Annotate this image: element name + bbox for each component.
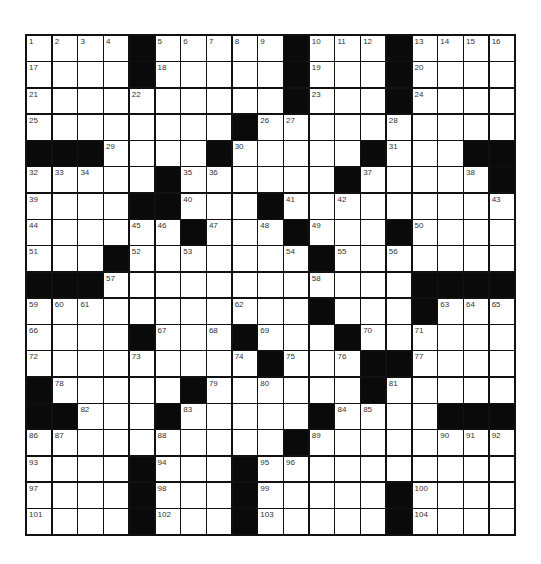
grid-cell[interactable] [78, 378, 102, 403]
grid-cell[interactable]: 69 [258, 325, 282, 350]
grid-cell[interactable] [78, 62, 102, 87]
grid-cell[interactable] [413, 457, 437, 482]
grid-cell[interactable] [104, 194, 128, 219]
grid-cell[interactable] [233, 273, 257, 298]
grid-cell[interactable] [387, 430, 411, 455]
grid-cell[interactable] [156, 351, 180, 376]
grid-cell[interactable]: 65 [490, 299, 514, 324]
grid-cell[interactable] [387, 273, 411, 298]
grid-cell[interactable]: 96 [284, 457, 308, 482]
grid-cell[interactable]: 47 [207, 220, 231, 245]
grid-cell[interactable] [130, 141, 154, 166]
grid-cell[interactable] [387, 457, 411, 482]
grid-cell[interactable]: 85 [361, 404, 385, 429]
grid-cell[interactable] [181, 273, 205, 298]
grid-cell[interactable] [284, 141, 308, 166]
grid-cell[interactable] [464, 89, 488, 114]
grid-cell[interactable]: 35 [181, 167, 205, 192]
grid-cell[interactable] [233, 404, 257, 429]
grid-cell[interactable]: 37 [361, 167, 385, 192]
grid-cell[interactable] [361, 194, 385, 219]
grid-cell[interactable] [310, 115, 334, 140]
grid-cell[interactable]: 71 [413, 325, 437, 350]
grid-cell[interactable] [78, 483, 102, 508]
grid-cell[interactable] [233, 430, 257, 455]
grid-cell[interactable] [335, 299, 359, 324]
grid-cell[interactable]: 64 [464, 299, 488, 324]
grid-cell[interactable] [78, 194, 102, 219]
grid-cell[interactable]: 1 [27, 36, 51, 61]
grid-cell[interactable] [233, 194, 257, 219]
grid-cell[interactable]: 104 [413, 509, 437, 534]
grid-cell[interactable]: 3 [78, 36, 102, 61]
grid-cell[interactable]: 8 [233, 36, 257, 61]
grid-cell[interactable]: 51 [27, 246, 51, 271]
grid-cell[interactable]: 13 [413, 36, 437, 61]
grid-cell[interactable] [156, 246, 180, 271]
grid-cell[interactable] [438, 457, 462, 482]
grid-cell[interactable]: 90 [438, 430, 462, 455]
grid-cell[interactable] [104, 220, 128, 245]
grid-cell[interactable] [53, 89, 77, 114]
grid-cell[interactable]: 103 [258, 509, 282, 534]
grid-cell[interactable]: 79 [207, 378, 231, 403]
grid-cell[interactable]: 93 [27, 457, 51, 482]
grid-cell[interactable] [361, 62, 385, 87]
grid-cell[interactable] [284, 483, 308, 508]
grid-cell[interactable]: 80 [258, 378, 282, 403]
grid-cell[interactable] [335, 457, 359, 482]
grid-cell[interactable]: 22 [130, 89, 154, 114]
grid-cell[interactable] [284, 325, 308, 350]
grid-cell[interactable] [181, 115, 205, 140]
grid-cell[interactable] [258, 246, 282, 271]
grid-cell[interactable]: 86 [27, 430, 51, 455]
grid-cell[interactable]: 27 [284, 115, 308, 140]
grid-cell[interactable] [104, 430, 128, 455]
grid-cell[interactable] [156, 115, 180, 140]
grid-cell[interactable] [335, 115, 359, 140]
grid-cell[interactable] [53, 457, 77, 482]
grid-cell[interactable]: 63 [438, 299, 462, 324]
grid-cell[interactable] [156, 378, 180, 403]
grid-cell[interactable] [233, 62, 257, 87]
grid-cell[interactable] [335, 430, 359, 455]
grid-cell[interactable]: 60 [53, 299, 77, 324]
grid-cell[interactable]: 81 [387, 378, 411, 403]
grid-cell[interactable] [130, 404, 154, 429]
grid-cell[interactable] [464, 457, 488, 482]
grid-cell[interactable] [53, 483, 77, 508]
grid-cell[interactable] [361, 430, 385, 455]
grid-cell[interactable]: 40 [181, 194, 205, 219]
grid-cell[interactable] [104, 62, 128, 87]
grid-cell[interactable] [490, 457, 514, 482]
grid-cell[interactable] [464, 509, 488, 534]
grid-cell[interactable] [104, 351, 128, 376]
grid-cell[interactable] [361, 89, 385, 114]
grid-cell[interactable] [387, 299, 411, 324]
grid-cell[interactable] [438, 62, 462, 87]
grid-cell[interactable] [181, 325, 205, 350]
grid-cell[interactable]: 73 [130, 351, 154, 376]
grid-cell[interactable] [438, 220, 462, 245]
grid-cell[interactable] [310, 483, 334, 508]
grid-cell[interactable] [207, 62, 231, 87]
grid-cell[interactable] [490, 246, 514, 271]
grid-cell[interactable] [490, 220, 514, 245]
grid-cell[interactable] [181, 351, 205, 376]
grid-cell[interactable] [207, 299, 231, 324]
grid-cell[interactable] [361, 246, 385, 271]
grid-cell[interactable] [53, 62, 77, 87]
grid-cell[interactable] [361, 220, 385, 245]
grid-cell[interactable]: 102 [156, 509, 180, 534]
grid-cell[interactable]: 49 [310, 220, 334, 245]
grid-cell[interactable]: 66 [27, 325, 51, 350]
grid-cell[interactable] [310, 141, 334, 166]
grid-cell[interactable] [207, 194, 231, 219]
grid-cell[interactable]: 54 [284, 246, 308, 271]
grid-cell[interactable] [53, 115, 77, 140]
grid-cell[interactable] [156, 299, 180, 324]
grid-cell[interactable] [104, 404, 128, 429]
grid-cell[interactable] [181, 509, 205, 534]
grid-cell[interactable]: 61 [78, 299, 102, 324]
grid-cell[interactable] [284, 299, 308, 324]
